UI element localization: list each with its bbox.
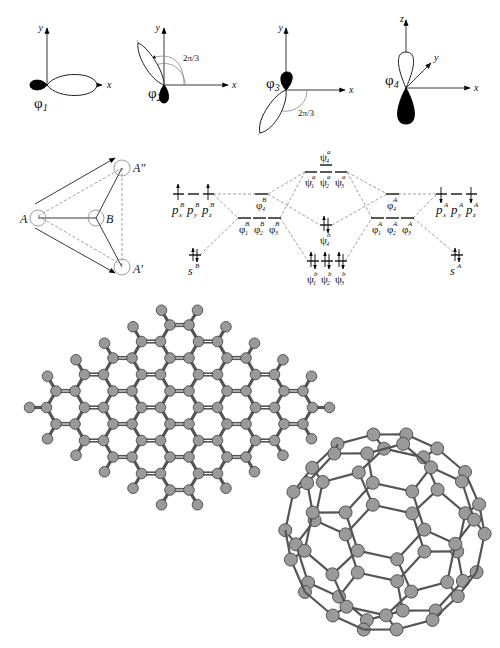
carbon-atom	[351, 544, 364, 557]
carbon-atom	[193, 435, 204, 446]
level-phi123-B: φ 1 B φ 2 B φ 3 B	[238, 218, 281, 236]
carbon-atom	[155, 402, 166, 413]
svg-text:p: p	[435, 202, 443, 217]
svg-text:A: A	[458, 201, 464, 209]
carbon-atom	[426, 613, 439, 626]
carbon-atom	[366, 476, 379, 489]
hydrogen-atom	[24, 402, 35, 413]
level-psi123-a: ψ 1 a ψ 2 a ψ 3 a	[305, 172, 347, 189]
carbon-atom	[339, 506, 352, 519]
orbital-panel-phi2: y x 2π/3 φ2	[137, 22, 237, 103]
svg-text:x: x	[442, 211, 447, 219]
svg-text:a: a	[312, 173, 316, 181]
carbon-atom	[212, 468, 223, 479]
level-psi4-b: ψ 4 b	[320, 216, 332, 247]
carbon-atom	[212, 369, 223, 380]
mo-diagram: p x B p y B p z B s B φ 4 B	[171, 148, 479, 286]
carbon-atom	[351, 566, 364, 579]
carbon-atom	[165, 386, 176, 397]
svg-text:A: A	[473, 201, 479, 209]
hydrogen-atom	[192, 305, 203, 316]
carbon-atom	[269, 435, 280, 446]
level-p-B: p x B p y B p z B	[171, 184, 215, 219]
svg-text:s: s	[450, 264, 455, 278]
carbon-atom	[79, 435, 90, 446]
carbon-atom	[108, 419, 119, 430]
carbon-atom	[250, 369, 261, 380]
hydrogen-atom	[156, 305, 167, 316]
hydrogen-atom	[221, 483, 232, 494]
svg-text:B: B	[210, 201, 215, 209]
hydrogen-atom	[278, 354, 289, 365]
carbon-atom	[79, 369, 90, 380]
svg-text:p: p	[465, 202, 473, 217]
level-s-B: s B	[188, 248, 201, 278]
carbon-atom	[418, 545, 431, 558]
carbon-atom	[108, 386, 119, 397]
carbon-atom	[193, 369, 204, 380]
carbon-atom	[165, 320, 176, 331]
hydrogen-atom	[249, 466, 260, 477]
carbon-atom	[212, 435, 223, 446]
hydrogen-atom	[42, 433, 53, 444]
carbon-atom	[451, 590, 464, 603]
carbon-atom	[418, 523, 431, 536]
carbon-atom	[298, 544, 311, 557]
hydrogen-atom	[306, 371, 317, 382]
carbon-atom	[155, 336, 166, 347]
svg-text:3: 3	[407, 230, 411, 236]
carbon-atom	[212, 336, 223, 347]
carbon-atom	[222, 452, 233, 463]
svg-text:b: b	[327, 231, 331, 239]
svg-text:4: 4	[393, 206, 396, 212]
carbon-atom	[449, 537, 462, 550]
carbon-atom	[361, 447, 374, 460]
svg-text:B: B	[195, 201, 200, 209]
carbon-atom	[165, 419, 176, 430]
carbon-atom	[136, 336, 147, 347]
svg-text:B: B	[245, 220, 250, 228]
carbon-atom	[165, 485, 176, 496]
carbon-atom	[184, 452, 195, 463]
level-s-A: s A	[450, 248, 463, 278]
carbon-atom	[184, 485, 195, 496]
hydrogen-atom	[249, 338, 260, 349]
carbon-atom	[301, 477, 314, 490]
carbon-atom	[136, 435, 147, 446]
svg-text:4: 4	[262, 206, 265, 212]
svg-text:1: 1	[313, 280, 316, 286]
svg-text:x: x	[178, 211, 183, 219]
carbon-atom	[193, 468, 204, 479]
carbon-atom	[397, 437, 410, 450]
carbon-atom	[269, 369, 280, 380]
axis-y-label: y	[38, 22, 44, 33]
carbon-atom	[269, 402, 280, 413]
svg-text:A: A	[392, 196, 398, 204]
orbital-label-phi3: φ3	[266, 75, 280, 93]
hydrogen-atom	[221, 321, 232, 332]
svg-text:p: p	[171, 202, 179, 217]
svg-text:4: 4	[326, 158, 329, 164]
orbital-panel-phi3: y x 2π/3 φ3	[258, 22, 354, 135]
svg-text:A: A	[392, 220, 398, 228]
c60-fullerene	[279, 428, 491, 636]
hydrogen-atom	[71, 450, 82, 461]
svg-text:b: b	[328, 270, 332, 278]
carbon-atom	[51, 386, 62, 397]
orbital-label-phi4: φ4	[385, 72, 399, 90]
svg-text:p: p	[186, 202, 194, 217]
carbon-atom	[287, 485, 300, 498]
carbon-atom	[222, 419, 233, 430]
orbital-panel-phi4: z x y φ4	[385, 13, 479, 124]
carbon-atom	[241, 452, 252, 463]
svg-text:A: A	[407, 220, 413, 228]
carbon-atom	[70, 419, 81, 430]
carbon-atom	[468, 513, 481, 526]
carbon-atom	[241, 353, 252, 364]
svg-text:A: A	[456, 262, 462, 270]
carbon-atom	[367, 428, 380, 441]
carbon-atom	[391, 575, 404, 588]
carbon-atom	[222, 386, 233, 397]
carbon-atom	[98, 369, 109, 380]
svg-text:B: B	[106, 212, 114, 226]
